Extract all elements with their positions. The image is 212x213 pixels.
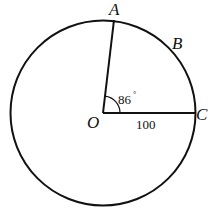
angle-label: 86 [118,92,132,107]
circle-diagram: A B C O 86 ° 100 [0,0,212,213]
label-B: B [172,34,183,53]
label-A: A [108,0,120,19]
degree-symbol: ° [133,90,136,99]
length-label-OC: 100 [136,117,156,132]
label-O: O [87,113,99,132]
label-C: C [196,105,208,124]
